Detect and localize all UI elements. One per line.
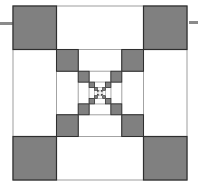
level-2-top-right-square: [111, 71, 122, 82]
level-5-top-left-square: [97, 90, 98, 91]
level-0-top-right-square: [144, 6, 188, 50]
level-5-bottom-left-square: [97, 94, 98, 95]
level-3-bottom-right-square: [105, 98, 110, 103]
level-5-top-right-square: [101, 90, 102, 91]
level-5-bottom-right-square: [101, 94, 102, 95]
level-0-bottom-left-square: [13, 137, 57, 181]
level-4-bottom-right-square: [103, 96, 106, 99]
level-4-top-left-square: [95, 88, 98, 91]
level-2-bottom-left-square: [78, 104, 89, 115]
level-0-bottom-right-square: [144, 137, 188, 181]
level-2-top-left-square: [78, 71, 89, 82]
level-2-bottom-right-square: [111, 104, 122, 115]
level-3-top-right-square: [105, 82, 110, 87]
level-4-top-right-square: [103, 88, 106, 91]
level-3-bottom-left-square: [89, 98, 94, 103]
level-1-bottom-left-square: [57, 115, 79, 137]
level-4-bottom-left-square: [95, 96, 98, 99]
level-1-top-left-square: [57, 50, 79, 72]
level-1-top-right-square: [122, 50, 144, 72]
level-0-top-left-square: [13, 6, 57, 50]
fractal-squares-svg: [0, 0, 198, 195]
level-3-top-left-square: [89, 82, 94, 87]
level-1-bottom-right-square: [122, 115, 144, 137]
